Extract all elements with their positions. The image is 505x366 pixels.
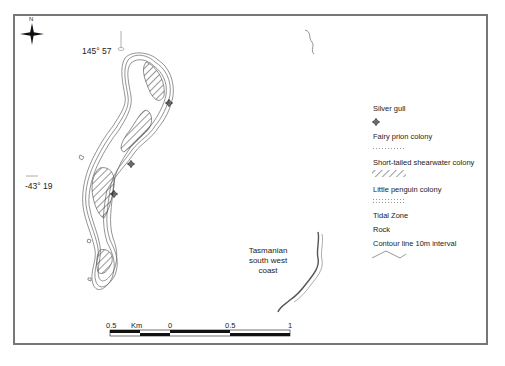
mainland-label: Tasmanian south west coast xyxy=(243,246,293,276)
legend-rock: Rock xyxy=(373,225,390,234)
legend-contour: Contour line 10m interval xyxy=(373,239,456,248)
legend-silver-gull: Silver gull xyxy=(373,104,406,113)
longitude-label: 145° 57 xyxy=(82,46,111,56)
scale-bar xyxy=(110,330,290,336)
legend-fairy-prion: Fairy prion colony xyxy=(373,132,432,141)
scale-tick-0.5: 0.5 xyxy=(225,321,235,330)
legend-tidal-zone: Tidal Zone xyxy=(373,211,408,220)
latitude-label: -43° 19 xyxy=(25,181,53,191)
scale-tick-1: 1 xyxy=(288,321,292,330)
north-label: N xyxy=(29,16,33,22)
scale-unit: Km xyxy=(131,321,142,330)
legend-little-penguin: Little penguin colony xyxy=(373,185,441,194)
legend-shearwater: Short-tailed shearwater colony xyxy=(373,158,474,167)
scale-tick-0: 0 xyxy=(168,321,172,330)
scale-tick-neg-0.5: 0.5 xyxy=(106,321,116,330)
shearwater-colony-areas xyxy=(92,62,164,274)
map-canvas xyxy=(0,0,505,366)
compass-rose-icon xyxy=(20,23,44,45)
coast-fragment xyxy=(305,30,314,54)
